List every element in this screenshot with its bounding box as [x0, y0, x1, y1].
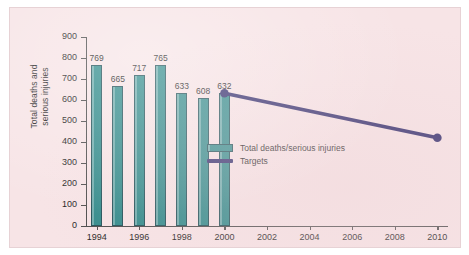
x-axis-tick-label: 2000 [214, 232, 234, 242]
x-axis-tick [310, 226, 311, 230]
x-axis-tick-label: 2002 [257, 232, 277, 242]
y-axis-tick-label: 800 [62, 52, 77, 62]
x-axis-tick-label: 1996 [129, 232, 149, 242]
x-axis-tick [182, 226, 183, 230]
x-axis-tick-label: 2004 [300, 232, 320, 242]
legend-item-bar: Total deaths/serious injuries [207, 141, 345, 154]
target-marker [433, 134, 442, 143]
y-axis-tick-label: 200 [62, 178, 77, 188]
x-axis-tick-label: 2008 [385, 232, 405, 242]
legend-item-targets: Targets [207, 154, 345, 167]
x-axis-tick [352, 226, 353, 230]
x-axis-tick-label: 1994 [87, 232, 107, 242]
y-axis-tick-label: 100 [62, 199, 77, 209]
chart-figure: Total deaths and serious injuries 010020… [0, 0, 469, 255]
y-axis-title: Total deaths and serious injuries [29, 32, 50, 162]
legend: Total deaths/serious injuries Targets [207, 141, 345, 167]
x-axis-tick [139, 226, 140, 230]
x-axis-tick-label: 2006 [342, 232, 362, 242]
scanned-chart-plate: Total deaths and serious injuries 010020… [9, 7, 461, 248]
y-axis-tick-label: 600 [62, 94, 77, 104]
x-axis-tick [97, 226, 98, 230]
y-axis-tick-label: 500 [62, 115, 77, 125]
y-axis-tick-label: 0 [72, 220, 77, 230]
target-line [224, 93, 437, 138]
y-axis-tick-label: 900 [62, 31, 77, 41]
y-axis-tick: 0 [81, 226, 86, 227]
x-axis-tick [267, 226, 268, 230]
x-axis-tick [395, 226, 396, 230]
x-axis-tick [437, 226, 438, 230]
x-axis-tick [224, 226, 225, 230]
y-axis-tick-label: 700 [62, 73, 77, 83]
legend-item-label: Targets [240, 156, 268, 166]
target-line-series [86, 37, 448, 226]
y-axis-tick-label: 300 [62, 157, 77, 167]
x-axis-tick-label: 2010 [427, 232, 447, 242]
legend-bar-swatch-icon [207, 144, 233, 152]
x-axis-tick-label: 1998 [172, 232, 192, 242]
legend-item-label: Total deaths/serious injuries [240, 143, 345, 153]
target-marker [220, 89, 229, 98]
legend-line-swatch-icon [207, 159, 233, 163]
y-axis-tick-label: 400 [62, 136, 77, 146]
plot-area: 0100200300400500600700800900 19941996199… [86, 37, 448, 226]
